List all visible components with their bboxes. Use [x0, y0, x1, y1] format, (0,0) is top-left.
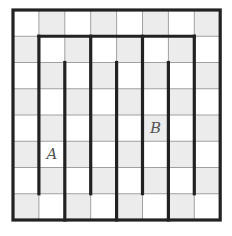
grid-cell: [13, 168, 39, 194]
grid-cell: [91, 168, 117, 194]
maze-grid-diagram: A B: [0, 0, 232, 236]
grid-cell: [143, 194, 169, 220]
grid-cell: [39, 10, 65, 36]
grid-cell: [13, 10, 39, 36]
grid-cell: [65, 63, 91, 89]
grid-cell: [117, 10, 143, 36]
grid-cell: [39, 63, 65, 89]
grid-cell: [117, 89, 143, 115]
grid-cell: [39, 36, 65, 62]
grid-cell: [91, 141, 117, 167]
grid-cell: [194, 194, 220, 220]
grid-cell: [194, 115, 220, 141]
grid-cell: [168, 89, 194, 115]
grid-cell: [65, 141, 91, 167]
grid-cell: [91, 89, 117, 115]
grid-cell: [39, 89, 65, 115]
grid-cell: [168, 141, 194, 167]
grid-cell: [13, 115, 39, 141]
grid-cell: [91, 194, 117, 220]
grid-cell: [194, 36, 220, 62]
grid-cell: [143, 63, 169, 89]
grid-cell: [65, 168, 91, 194]
grid-cell: [117, 115, 143, 141]
grid-cell: [168, 63, 194, 89]
grid-cell: [117, 36, 143, 62]
grid-cell: [168, 10, 194, 36]
grid-cell: [39, 168, 65, 194]
grid-cell: [13, 36, 39, 62]
label-a: A: [44, 145, 57, 163]
grid-cell: [91, 115, 117, 141]
grid-cell: [13, 63, 39, 89]
grid-cell: [194, 168, 220, 194]
grid-cell: [39, 115, 65, 141]
grid-cell: [65, 89, 91, 115]
grid-cell: [13, 141, 39, 167]
grid-cell: [65, 36, 91, 62]
grid-cell: [194, 10, 220, 36]
grid-cell: [13, 194, 39, 220]
grid-cell: [194, 141, 220, 167]
grid-cell: [168, 36, 194, 62]
label-b: B: [149, 119, 161, 137]
grid-cell: [91, 10, 117, 36]
grid-cell: [65, 194, 91, 220]
grid-cell: [143, 36, 169, 62]
grid-cell: [168, 168, 194, 194]
grid-cell: [168, 115, 194, 141]
grid-cell: [117, 168, 143, 194]
grid-cell: [13, 89, 39, 115]
grid-cell: [117, 141, 143, 167]
grid-cell: [194, 89, 220, 115]
grid-cell: [39, 194, 65, 220]
grid-cell: [143, 141, 169, 167]
grid-cell: [194, 63, 220, 89]
grid-cell: [143, 10, 169, 36]
grid-cell: [143, 89, 169, 115]
grid-cell: [91, 36, 117, 62]
grid-cell: [168, 194, 194, 220]
grid-cell: [117, 63, 143, 89]
grid-cell: [65, 115, 91, 141]
grid-cell: [91, 63, 117, 89]
grid-cell: [143, 168, 169, 194]
grid-cell: [65, 10, 91, 36]
grid-cell: [117, 194, 143, 220]
